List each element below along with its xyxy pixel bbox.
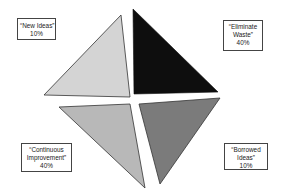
label-eliminate-waste-percent: 40% — [226, 39, 260, 47]
triangle-eliminate-waste — [133, 9, 218, 94]
label-eliminate-waste-line2: Waste” — [226, 31, 260, 39]
triangle-borrowed-ideas — [139, 98, 220, 184]
label-continuous-improvement-line1: “Continuous — [24, 146, 69, 154]
label-borrowed-ideas-line1: “Borrowed — [227, 146, 265, 154]
label-borrowed-ideas-percent: 10% — [227, 162, 265, 170]
label-new-ideas-percent: 10% — [20, 30, 53, 38]
label-eliminate-waste-line1: “Eliminate — [226, 23, 260, 31]
label-continuous-improvement: “Continuous Improvement” 40% — [21, 143, 72, 172]
triangle-new-ideas — [44, 15, 130, 97]
label-borrowed-ideas: “Borrowed Ideas” 10% — [224, 143, 268, 170]
label-new-ideas: “New Ideas” 10% — [17, 18, 56, 40]
label-borrowed-ideas-line2: Ideas” — [227, 154, 265, 162]
label-eliminate-waste: “Eliminate Waste” 40% — [223, 20, 263, 51]
label-continuous-improvement-line2: Improvement” — [24, 154, 69, 162]
label-new-ideas-title: “New Ideas” — [20, 22, 53, 30]
label-continuous-improvement-percent: 40% — [24, 162, 69, 170]
